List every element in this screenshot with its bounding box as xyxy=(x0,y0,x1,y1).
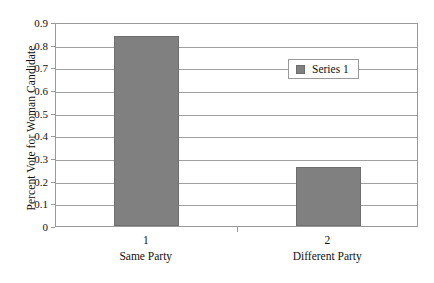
bar-chart: Percent Vote for Woman Candidate 00.10.2… xyxy=(0,0,434,283)
y-axis-tick-label: 0.3 xyxy=(4,153,48,165)
x-axis-separator-tick xyxy=(237,227,238,232)
plot-area xyxy=(55,23,418,227)
x-axis-tick-label: 2 xyxy=(262,233,392,248)
x-axis-category-label: Same Party xyxy=(81,248,211,265)
legend-label-series-1: Series 1 xyxy=(312,63,349,75)
x-axis-tick-label: 1 xyxy=(81,233,211,248)
gridline xyxy=(56,205,417,206)
x-axis-category-label: Different Party xyxy=(262,248,392,265)
gridline xyxy=(56,92,417,93)
y-axis-tick-label: 0.2 xyxy=(4,176,48,188)
gridline xyxy=(56,47,417,48)
legend-swatch-series-1 xyxy=(296,65,305,74)
x-axis-category: 2Different Party xyxy=(262,233,392,265)
chart-legend: Series 1 xyxy=(288,59,359,79)
y-axis-tick-label: 0.4 xyxy=(4,130,48,142)
gridline xyxy=(56,115,417,116)
gridline xyxy=(56,160,417,161)
x-axis: 1Same Party2Different Party xyxy=(55,227,418,283)
gridline xyxy=(56,137,417,138)
gridline xyxy=(56,183,417,184)
gridline xyxy=(56,69,417,70)
bar xyxy=(296,167,361,226)
y-axis-tick-label: 0.9 xyxy=(4,17,48,29)
y-axis-tick-label: 0.5 xyxy=(4,108,48,120)
y-axis-tick-label: 0.8 xyxy=(4,40,48,52)
bar xyxy=(114,36,179,226)
y-axis-tick-label: 0 xyxy=(4,221,48,233)
y-axis-tick-label: 0.1 xyxy=(4,198,48,210)
x-axis-category: 1Same Party xyxy=(81,233,211,265)
y-axis-tick-label: 0.7 xyxy=(4,62,48,74)
y-axis-tick-label: 0.6 xyxy=(4,85,48,97)
